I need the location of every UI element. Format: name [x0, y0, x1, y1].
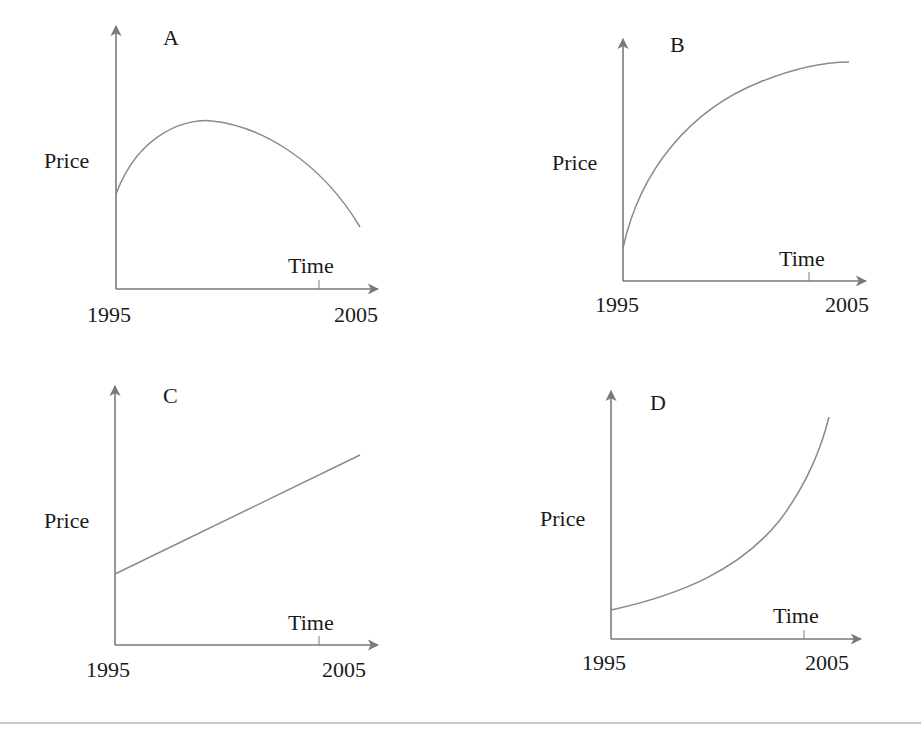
y-axis-label: Price: [552, 150, 597, 175]
x-end-label: 2005: [334, 302, 378, 327]
panel-a: A Price Time 1995 2005: [44, 25, 378, 327]
x-start-label: 1995: [86, 657, 130, 682]
panel-title: C: [163, 383, 178, 408]
x-axis-label: Time: [773, 603, 819, 628]
y-axis-label: Price: [540, 506, 585, 531]
panel-c: C Price Time 1995 2005: [44, 383, 378, 682]
x-end-label: 2005: [825, 292, 869, 317]
price-curve: [611, 417, 829, 610]
panel-d: D Price Time 1995 2005: [540, 390, 861, 675]
y-axis-label: Price: [44, 508, 89, 533]
panel-title: B: [670, 32, 685, 57]
price-line: [115, 455, 360, 574]
four-panel-price-time-figure: A Price Time 1995 2005 B Price Time 1995…: [0, 0, 921, 730]
x-axis-label: Time: [288, 253, 334, 278]
price-curve: [623, 62, 849, 248]
bottom-divider: [0, 722, 921, 724]
x-start-label: 1995: [595, 292, 639, 317]
x-end-label: 2005: [805, 650, 849, 675]
x-end-label: 2005: [322, 657, 366, 682]
x-axis-label: Time: [288, 610, 334, 635]
price-curve: [116, 121, 360, 227]
panel-title: A: [163, 25, 179, 50]
y-axis-label: Price: [44, 148, 89, 173]
panel-title: D: [650, 390, 666, 415]
x-start-label: 1995: [582, 650, 626, 675]
panel-b: B Price Time 1995 2005: [552, 32, 869, 317]
x-start-label: 1995: [87, 302, 131, 327]
x-axis-label: Time: [779, 246, 825, 271]
